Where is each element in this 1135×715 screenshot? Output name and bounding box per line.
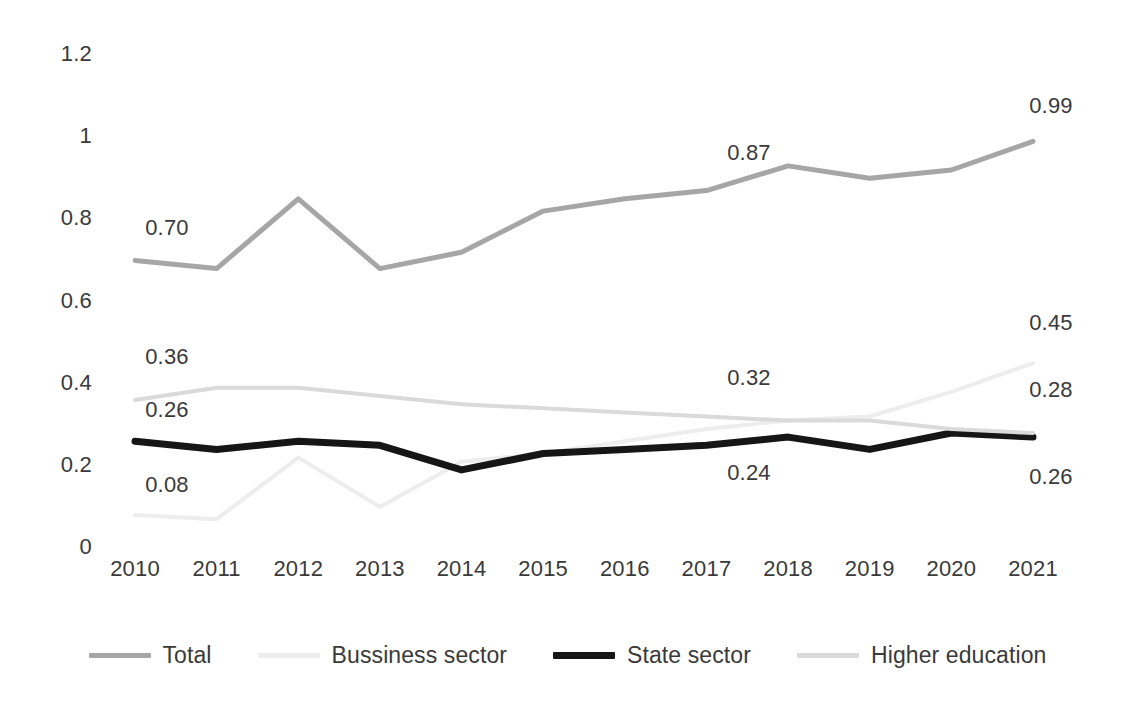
legend-item[interactable]: State sector	[553, 642, 751, 669]
line-chart: 1.210.80.60.40.20 0.700.870.990.360.320.…	[0, 0, 1135, 715]
x-axis-tick: 2014	[422, 556, 502, 582]
legend-color-swatch	[258, 653, 320, 658]
x-axis-tick: 2017	[666, 556, 746, 582]
x-axis-tick: 2019	[830, 556, 910, 582]
chart-legend: TotalBussiness sectorState sectorHigher …	[0, 630, 1135, 680]
data-point-label: 0.26	[132, 397, 202, 423]
series-line	[135, 433, 1033, 470]
data-point-label: 0.70	[132, 215, 202, 241]
series-line	[135, 141, 1033, 268]
data-point-label: 0.87	[714, 140, 784, 166]
legend-item[interactable]: Total	[89, 642, 212, 669]
x-axis-tick: 2012	[258, 556, 338, 582]
x-axis-tick: 2011	[177, 556, 257, 582]
data-point-label: 0.24	[714, 460, 784, 486]
x-axis-tick: 2016	[585, 556, 665, 582]
legend-item-label: Bussiness sector	[332, 642, 507, 669]
legend-item[interactable]: Bussiness sector	[258, 642, 507, 669]
legend-color-swatch	[89, 653, 151, 658]
x-axis-tick: 2013	[340, 556, 420, 582]
x-axis-tick: 2010	[95, 556, 175, 582]
legend-item-label: Total	[163, 642, 212, 669]
data-point-label: 0.99	[1016, 93, 1086, 119]
data-point-label: 0.28	[1016, 377, 1086, 403]
x-axis-tick: 2018	[748, 556, 828, 582]
data-point-label: 0.08	[132, 472, 202, 498]
legend-color-swatch	[797, 653, 859, 658]
data-point-label: 0.32	[714, 365, 784, 391]
legend-item-label: Higher education	[871, 642, 1047, 669]
x-axis-tick: 2021	[993, 556, 1073, 582]
legend-color-swatch	[553, 652, 615, 659]
x-axis-tick: 2015	[503, 556, 583, 582]
legend-item-label: State sector	[627, 642, 751, 669]
legend-item[interactable]: Higher education	[797, 642, 1047, 669]
data-point-label: 0.45	[1016, 310, 1086, 336]
x-axis-tick: 2020	[911, 556, 991, 582]
data-point-label: 0.36	[132, 344, 202, 370]
series-line	[135, 388, 1033, 433]
data-point-label: 0.26	[1016, 464, 1086, 490]
